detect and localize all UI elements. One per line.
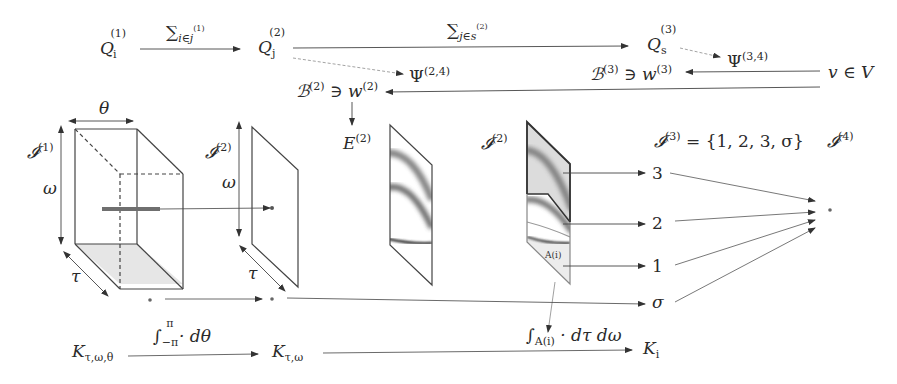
label-omega2: ω bbox=[222, 174, 236, 191]
label-sum2: ∑j∈s(2) bbox=[447, 22, 488, 42]
panel-e2 bbox=[386, 125, 432, 285]
diagram-canvas: Qi(1) ∑i∈j(1) Qj(2) ∑j∈s(2) Qs(3) Ψ(2,4)… bbox=[0, 0, 897, 384]
plane-i2 bbox=[252, 127, 298, 287]
label-i3-set: 𝓘(3) = {1, 2, 3, σ} bbox=[654, 131, 804, 150]
label-tau1: τ bbox=[71, 268, 80, 285]
label-theta: θ bbox=[99, 100, 109, 117]
label-psi34: Ψ(3,4) bbox=[727, 51, 768, 70]
label-k-tau-omega-theta: Kτ,ω,θ bbox=[72, 343, 113, 363]
output-sigma: σ bbox=[652, 294, 664, 311]
i4-point bbox=[828, 208, 832, 212]
output-1: 1 bbox=[652, 258, 663, 275]
projection-arrow bbox=[160, 208, 270, 209]
label-b2: ℬ(2) ∋ w(2) bbox=[296, 81, 378, 100]
label-k-i: Ki bbox=[643, 340, 659, 360]
label-q2: Qj(2) bbox=[258, 37, 285, 59]
label-i2-right: 𝓘(2) bbox=[481, 133, 508, 152]
label-i1: 𝓘(1) bbox=[27, 142, 54, 161]
label-i2-left: 𝓘(2) bbox=[205, 142, 232, 161]
top-arrows bbox=[140, 46, 820, 125]
point-k2 bbox=[270, 297, 274, 301]
point-k1 bbox=[148, 298, 152, 302]
label-psi24: Ψ(2,4) bbox=[409, 66, 450, 85]
label-b3: ℬ(3) ∋ w(3) bbox=[590, 64, 672, 83]
bottom-arrow-1 bbox=[128, 354, 258, 356]
integration-bar bbox=[102, 207, 160, 211]
output-3: 3 bbox=[652, 165, 663, 182]
bottom-arrow-2 bbox=[323, 350, 632, 353]
label-int-area: ∫A(i) · dτ dω bbox=[526, 327, 622, 347]
label-v-in-V: v ∈ V bbox=[828, 64, 873, 81]
projected-point bbox=[270, 206, 274, 210]
point-arrow-2 bbox=[287, 298, 645, 304]
segment-arrows bbox=[563, 173, 645, 266]
output-arrows bbox=[670, 173, 815, 302]
label-int-theta: ∫−ππ · dθ bbox=[153, 326, 211, 348]
label-region-a-i: A(i) bbox=[545, 250, 561, 260]
label-omega1: ω bbox=[43, 180, 57, 197]
label-q3: Qs(3) bbox=[647, 34, 676, 56]
label-i4: 𝓘(4) bbox=[827, 131, 854, 150]
label-tau2: τ bbox=[248, 265, 257, 282]
output-2: 2 bbox=[652, 215, 663, 232]
label-sum1: ∑i∈j(1) bbox=[166, 24, 205, 44]
label-q1: Qi(1) bbox=[100, 38, 126, 60]
label-e2: E(2) bbox=[343, 133, 371, 152]
label-k-tau-omega: Kτ,ω bbox=[272, 343, 303, 363]
